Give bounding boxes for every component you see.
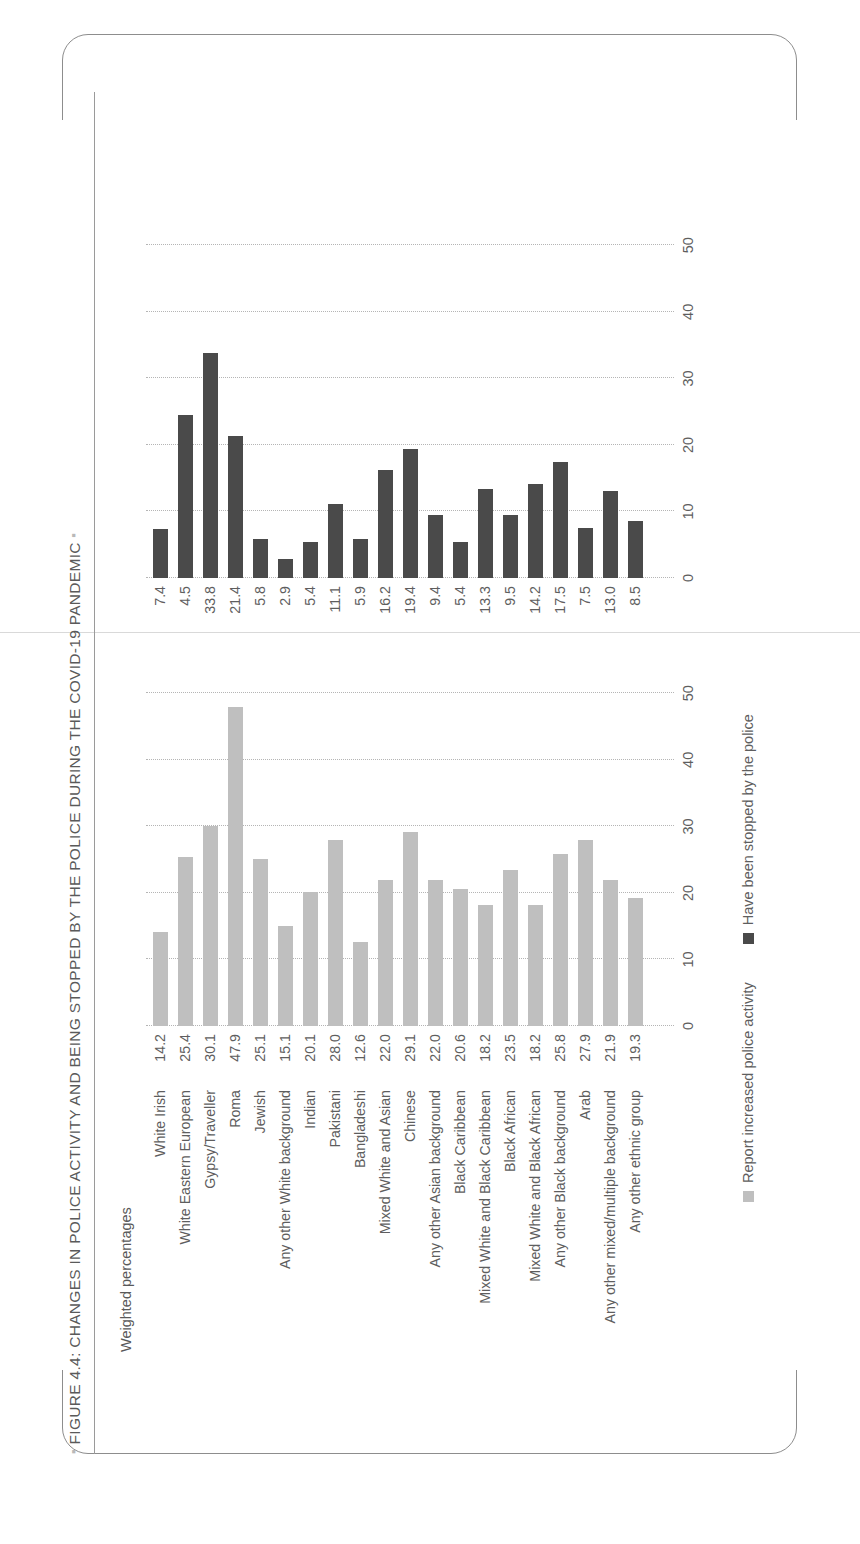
bar <box>478 905 493 1026</box>
bar <box>553 854 568 1026</box>
bar <box>553 462 568 578</box>
category-label: Any other White background <box>273 1090 298 1269</box>
category-label: Any other ethnic group <box>623 1090 648 1233</box>
bar <box>403 449 418 578</box>
x-axis-ticks-series-1: 01020304050 <box>680 660 702 1026</box>
bar <box>528 905 543 1026</box>
x-axis-tick-label: 50 <box>680 685 696 701</box>
value-label-column-series-2: 7.44.533.821.45.82.95.411.15.916.219.49.… <box>146 586 706 632</box>
bar <box>453 889 468 1026</box>
category-label: Indian <box>298 1090 323 1129</box>
category-label: Gypsy/Traveller <box>198 1090 223 1189</box>
category-label: Black Caribbean <box>448 1090 473 1194</box>
x-axis-tick-label: 10 <box>680 951 696 967</box>
bar-value-label: 29.1 <box>398 1034 423 1062</box>
gridline <box>146 759 674 760</box>
bar-value-label: 30.1 <box>198 1034 223 1062</box>
bar-value-label: 22.0 <box>373 1034 398 1062</box>
bar <box>378 880 393 1026</box>
x-axis-tick-label: 0 <box>680 574 696 582</box>
bar-value-label: 22.0 <box>423 1034 448 1062</box>
bar-value-label: 14.2 <box>148 1034 173 1062</box>
bar <box>328 840 343 1026</box>
bar <box>453 542 468 578</box>
figure-title-text: FIGURE 4.4: CHANGES IN POLICE ACTIVITY A… <box>66 542 83 1444</box>
panel-series-1: 14.225.430.147.925.115.120.128.012.622.0… <box>146 660 706 1080</box>
legend-item-report-increased-police-activity: Report increased police activity <box>740 982 756 1202</box>
panel-series-2: 7.44.533.821.45.82.95.411.15.916.219.49.… <box>146 212 706 632</box>
bar-value-label: 20.6 <box>448 1034 473 1062</box>
x-axis-tick-label: 0 <box>680 1022 696 1030</box>
bar-value-label: 5.8 <box>248 586 273 606</box>
bar-value-label: 8.5 <box>623 586 648 606</box>
bar <box>353 942 368 1026</box>
bar <box>178 857 193 1026</box>
bar-value-label: 2.9 <box>273 586 298 606</box>
bar <box>153 932 168 1026</box>
category-label: Mixed White and Black Caribbean <box>473 1090 498 1304</box>
bar-value-label: 16.2 <box>373 586 398 614</box>
title-underline <box>94 92 95 1454</box>
bar <box>203 353 218 578</box>
bar-value-label: 18.2 <box>523 1034 548 1062</box>
x-axis-ticks-series-2: 01020304050 <box>680 212 702 578</box>
figure-title: ▪ FIGURE 4.4: CHANGES IN POLICE ACTIVITY… <box>66 94 84 1454</box>
category-label: Mixed White and Black African <box>523 1090 548 1282</box>
bar <box>503 515 518 578</box>
bar-value-label: 20.1 <box>298 1034 323 1062</box>
value-label-column-series-1: 14.225.430.147.925.115.120.128.012.622.0… <box>146 1034 706 1080</box>
bar-value-label: 11.1 <box>323 586 348 613</box>
bar <box>628 521 643 578</box>
category-label: Any other mixed/multiple background <box>598 1090 623 1323</box>
legend-swatch-icon-series-1 <box>743 1191 754 1202</box>
title-bullet-left: ▪ <box>66 1449 81 1454</box>
title-bullet-right: ▪ <box>66 533 81 538</box>
bar <box>578 528 593 578</box>
gridline <box>146 244 674 245</box>
bar <box>353 539 368 578</box>
bar-value-label: 25.4 <box>173 1034 198 1062</box>
bar-value-label: 13.3 <box>473 586 498 614</box>
rotated-figure-canvas: ▪ FIGURE 4.4: CHANGES IN POLICE ACTIVITY… <box>50 42 810 1502</box>
bar-value-label: 33.8 <box>198 586 223 614</box>
bar-value-label: 17.5 <box>548 586 573 614</box>
category-label: Bangladeshi <box>348 1090 373 1168</box>
bar-value-label: 25.8 <box>548 1034 573 1062</box>
bar <box>253 539 268 578</box>
x-axis-tick-label: 20 <box>680 437 696 453</box>
x-axis-tick-label: 30 <box>680 818 696 834</box>
bar-value-label: 21.4 <box>223 586 248 614</box>
bar <box>503 870 518 1026</box>
bar-value-label: 21.9 <box>598 1034 623 1062</box>
gridline <box>146 825 674 826</box>
category-label: White Irish <box>148 1090 173 1157</box>
bar-value-label: 18.2 <box>473 1034 498 1062</box>
bar <box>178 415 193 578</box>
bar <box>603 492 618 579</box>
category-label: Arab <box>573 1090 598 1120</box>
bar-value-label: 47.9 <box>223 1034 248 1062</box>
legend-label-series-2: Have been stopped by the police <box>740 714 756 925</box>
category-label: Jewish <box>248 1090 273 1133</box>
bar <box>428 515 443 578</box>
bar-value-label: 23.5 <box>498 1034 523 1062</box>
bar-value-label: 14.2 <box>523 586 548 614</box>
category-label: Roma <box>223 1090 248 1128</box>
bar-value-label: 5.9 <box>348 586 373 606</box>
bar-value-label: 28.0 <box>323 1034 348 1062</box>
bar-value-label: 25.1 <box>248 1034 273 1062</box>
category-label: Black African <box>498 1090 523 1172</box>
bar <box>478 490 493 579</box>
category-label: Pakistani <box>323 1090 348 1148</box>
bar-value-label: 12.6 <box>348 1034 373 1062</box>
category-label: Any other Asian background <box>423 1090 448 1267</box>
bar <box>328 504 343 578</box>
x-axis-tick-label: 40 <box>680 752 696 768</box>
bar-value-label: 7.4 <box>148 586 173 606</box>
bar-value-label: 5.4 <box>298 586 323 606</box>
bar-value-label: 19.4 <box>398 586 423 614</box>
category-label: Chinese <box>398 1090 423 1142</box>
bars-series-1 <box>146 660 674 1026</box>
gridline <box>146 311 674 312</box>
bar-value-label: 19.3 <box>623 1034 648 1062</box>
